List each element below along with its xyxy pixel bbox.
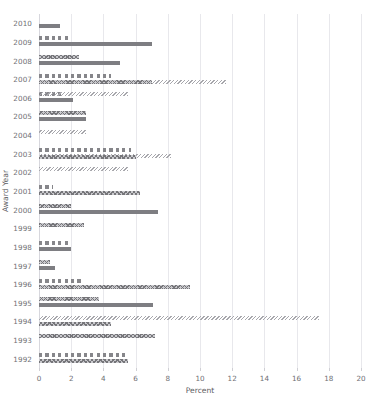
bar-2008-solid (39, 61, 120, 65)
bar-1992-dashed (39, 353, 128, 357)
x-tick-12: 12 (228, 374, 237, 383)
x-tickmark-12 (232, 368, 233, 371)
bar-1994-hatch-light (39, 316, 319, 320)
x-tick-0: 0 (37, 374, 42, 383)
y-tick-1994: 1994 (13, 317, 32, 326)
bar-1996-hatch-dense (39, 285, 190, 289)
plot-area (39, 14, 361, 368)
x-tick-10: 10 (195, 374, 204, 383)
y-tick-2000: 2000 (13, 205, 32, 214)
bar-2003-hatch-dense (39, 155, 136, 159)
y-tick-1998: 1998 (13, 242, 32, 251)
x-tickmark-20 (361, 368, 362, 371)
x-tickmark-14 (264, 368, 265, 371)
x-axis-title: Percent (39, 386, 361, 395)
x-tick-2: 2 (69, 374, 74, 383)
gridline-20 (361, 14, 362, 368)
y-tick-1996: 1996 (13, 280, 32, 289)
x-tickmark-2 (71, 368, 72, 371)
y-tick-2010: 2010 (13, 19, 32, 28)
x-tick-20: 20 (356, 374, 365, 383)
bar-1998-dashed (39, 241, 70, 245)
bar-1999-hatch-dense (39, 223, 84, 227)
x-tickmark-8 (168, 368, 169, 371)
bar-2001-hatch-dense (39, 191, 140, 195)
y-tick-1993: 1993 (13, 336, 32, 345)
bar-2000-hatch-dense (39, 204, 71, 208)
bar-2009-dashed (39, 36, 68, 40)
x-tickmark-10 (200, 368, 201, 371)
bar-1996-dashed (39, 279, 84, 283)
y-tick-2004: 2004 (13, 131, 32, 140)
y-tick-1997: 1997 (13, 261, 32, 270)
x-tickmark-4 (103, 368, 104, 371)
bar-2004-hatch-light (39, 130, 86, 134)
bar-1992-hatch-dense (39, 359, 128, 363)
bar-1994-hatch-dense (39, 322, 111, 326)
y-tick-1992: 1992 (13, 354, 32, 363)
bar-2003-dashed (39, 148, 131, 152)
bar-1997-hatch-dense (39, 260, 50, 264)
bar-2008-hatch-dense (39, 55, 79, 59)
bar-2009-solid (39, 42, 152, 46)
x-tick-16: 16 (292, 374, 301, 383)
y-tick-1995: 1995 (13, 298, 32, 307)
bar-1997-solid (39, 266, 55, 270)
x-tick-4: 4 (101, 374, 106, 383)
bar-1995-solid (39, 303, 153, 307)
bar-2006-hatch-light (39, 92, 128, 96)
bar-2001-dashed (39, 185, 53, 189)
bar-1993-hatch-dense (39, 334, 155, 338)
bar-2005-solid (39, 117, 86, 121)
y-tick-1999: 1999 (13, 224, 32, 233)
x-axis: 02468101214161820 (39, 368, 361, 382)
y-tick-2005: 2005 (13, 112, 32, 121)
bar-2007-dashed (39, 74, 111, 78)
bar-chart: Award Year 20102009200820072006200520042… (0, 0, 374, 409)
x-tick-8: 8 (166, 374, 171, 383)
x-tickmark-16 (297, 368, 298, 371)
bar-2005-hatch-dense (39, 111, 86, 115)
y-tick-2002: 2002 (13, 168, 32, 177)
x-tick-14: 14 (260, 374, 269, 383)
bar-2007-hatch-dense (39, 80, 152, 84)
y-axis-tick-labels: 2010200920082007200620052004200320022001… (0, 14, 37, 368)
x-tickmark-18 (329, 368, 330, 371)
x-tick-6: 6 (133, 374, 138, 383)
y-tick-2006: 2006 (13, 93, 32, 102)
x-tickmark-0 (39, 368, 40, 371)
bar-2006-solid (39, 98, 73, 102)
bar-1998-solid (39, 247, 71, 251)
x-tick-18: 18 (324, 374, 333, 383)
y-tick-2008: 2008 (13, 56, 32, 65)
bar-2002-hatch-light (39, 167, 128, 171)
y-tick-2003: 2003 (13, 149, 32, 158)
x-tickmark-6 (136, 368, 137, 371)
gridline-18 (329, 14, 330, 368)
y-tick-2009: 2009 (13, 37, 32, 46)
y-tick-2001: 2001 (13, 187, 32, 196)
bar-2010-solid (39, 24, 60, 28)
bar-2000-solid (39, 210, 158, 214)
y-tick-2007: 2007 (13, 75, 32, 84)
bar-1995-hatch-dense (39, 297, 99, 301)
